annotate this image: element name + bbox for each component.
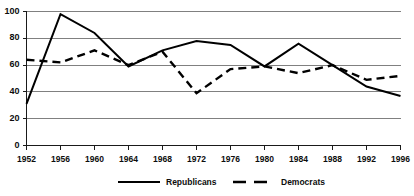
- axes: [27, 11, 401, 146]
- y-tick-label: 60: [0, 60, 20, 69]
- y-tick-label: 80: [0, 33, 20, 42]
- x-tick-label: 1992: [348, 155, 386, 164]
- line-chart: 020406080100 195219561960196419681972197…: [0, 0, 414, 196]
- y-tick-label: 40: [0, 87, 20, 96]
- x-tick-label: 1984: [280, 155, 318, 164]
- x-tick-label: 1968: [144, 155, 182, 164]
- x-tick-label: 1988: [314, 155, 352, 164]
- x-tick-marks: [27, 146, 401, 150]
- x-tick-label: 1964: [110, 155, 148, 164]
- y-tick-label: 20: [0, 114, 20, 123]
- y-tick-label: 0: [0, 141, 20, 150]
- plot-canvas: [0, 0, 414, 196]
- x-tick-label: 1960: [76, 155, 114, 164]
- x-tick-label: 1952: [8, 155, 46, 164]
- y-tick-marks: [23, 12, 27, 146]
- x-tick-label: 1980: [246, 155, 284, 164]
- data-series-lines: [27, 14, 401, 104]
- legend-label-republicans: Republicans: [166, 178, 217, 187]
- x-tick-label: 1972: [178, 155, 216, 164]
- x-tick-label: 1976: [212, 155, 250, 164]
- x-tick-label: 1996: [382, 155, 414, 164]
- legend-label-democrats: Democrats: [281, 178, 325, 187]
- gridlines: [27, 12, 401, 119]
- y-tick-label: 100: [0, 7, 20, 16]
- x-tick-label: 1956: [42, 155, 80, 164]
